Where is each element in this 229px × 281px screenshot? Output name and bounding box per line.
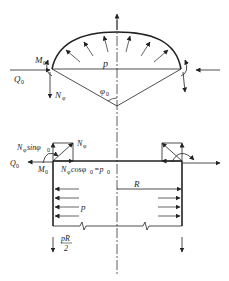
axial-denominator: 2 (64, 244, 68, 253)
pressure-label-bottom: p (80, 202, 86, 212)
svg-text:φ: φ (83, 143, 87, 149)
shear-label-top: Q (14, 74, 21, 84)
svg-text:0: 0 (90, 169, 93, 175)
svg-text:0: 0 (21, 79, 24, 85)
svg-text:sinφ: sinφ (27, 143, 41, 152)
svg-text:cosφ: cosφ (71, 165, 87, 174)
moment-label-top: M (34, 55, 43, 65)
svg-text:N: N (60, 165, 67, 174)
svg-text:0: 0 (107, 169, 110, 175)
nsin-label: N (16, 143, 23, 152)
svg-text:0: 0 (43, 60, 46, 66)
right-force-resolution (162, 143, 220, 163)
svg-text:φ: φ (100, 86, 105, 96)
svg-text:R: R (133, 179, 140, 189)
n-label: N (76, 139, 83, 148)
svg-text:=p: =p (94, 165, 103, 174)
pressure-arrows-cylinder (55, 189, 180, 216)
svg-text:φ: φ (62, 95, 66, 101)
right-edge-forces-top (181, 60, 220, 92)
svg-text:0: 0 (106, 91, 109, 97)
axial-numerator: pR (60, 234, 70, 243)
svg-text:0: 0 (47, 147, 50, 153)
radius-dimension: R (117, 179, 181, 189)
angle-phi0: φ 0 (100, 86, 117, 101)
svg-text:0: 0 (45, 169, 48, 175)
axial-force (53, 237, 182, 252)
spherical-cap (52, 32, 181, 106)
normal-label-top: N (54, 90, 62, 100)
svg-text:0: 0 (16, 163, 19, 169)
shell-force-diagram: p φ 0 M 0 Q 0 N φ N φ sinφ (0, 0, 229, 281)
ncos-label: N φ cosφ 0 =p 0 (60, 165, 110, 175)
pressure-label-top: p (102, 58, 108, 69)
